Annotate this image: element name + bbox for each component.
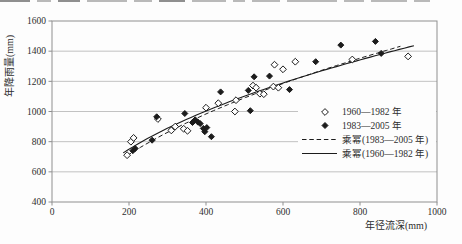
legend-label-2: 乘幂(1983—2005 年) xyxy=(342,134,428,146)
x-tick-label-0: 0 xyxy=(50,207,55,217)
data-point-filled-diamond xyxy=(372,38,378,44)
data-point-filled-diamond xyxy=(251,74,257,80)
data-point-open-diamond xyxy=(292,58,299,65)
y-tick-label-1400: 1400 xyxy=(27,46,46,56)
legend-label-0: 1960—1982 年 xyxy=(342,106,402,117)
x-axis-title: 年径流深(mm) xyxy=(365,219,427,232)
scanned-figure: 0200400600800100040060080010001200140016… xyxy=(0,0,462,244)
x-tick-label-600: 600 xyxy=(276,207,291,217)
data-point-open-diamond xyxy=(124,152,131,159)
legend-label-3: 乘幂(1960—1982 年) xyxy=(342,148,428,160)
data-point-filled-diamond xyxy=(247,108,253,114)
x-tick-label-200: 200 xyxy=(122,207,137,217)
data-point-filled-diamond xyxy=(208,134,214,140)
data-point-filled-diamond xyxy=(245,87,251,93)
x-tick-label-1000: 1000 xyxy=(428,207,447,217)
y-axis-title: 年降雨量(mm) xyxy=(3,35,16,97)
data-point-open-diamond xyxy=(280,66,287,73)
data-point-filled-diamond xyxy=(149,137,155,143)
data-point-filled-diamond xyxy=(313,59,319,65)
data-point-open-diamond xyxy=(405,53,412,60)
y-tick-label-800: 800 xyxy=(32,137,47,147)
data-point-filled-diamond xyxy=(267,73,273,79)
y-tick-label-1000: 1000 xyxy=(27,107,46,117)
data-point-filled-diamond xyxy=(218,89,224,95)
y-tick-label-1200: 1200 xyxy=(27,77,46,87)
y-tick-label-600: 600 xyxy=(32,167,47,177)
rainfall-runoff-scatter-chart: 0200400600800100040060080010001200140016… xyxy=(0,0,462,244)
x-tick-label-400: 400 xyxy=(199,207,214,217)
legend-label-1: 1983—2005 年 xyxy=(342,120,402,131)
data-point-filled-diamond xyxy=(287,87,293,93)
data-point-filled-diamond xyxy=(338,42,344,48)
y-tick-label-1600: 1600 xyxy=(27,16,46,26)
x-tick-label-800: 800 xyxy=(353,207,368,217)
data-point-open-diamond xyxy=(271,61,278,68)
data-point-open-diamond xyxy=(232,108,239,115)
y-tick-label-400: 400 xyxy=(32,197,47,207)
